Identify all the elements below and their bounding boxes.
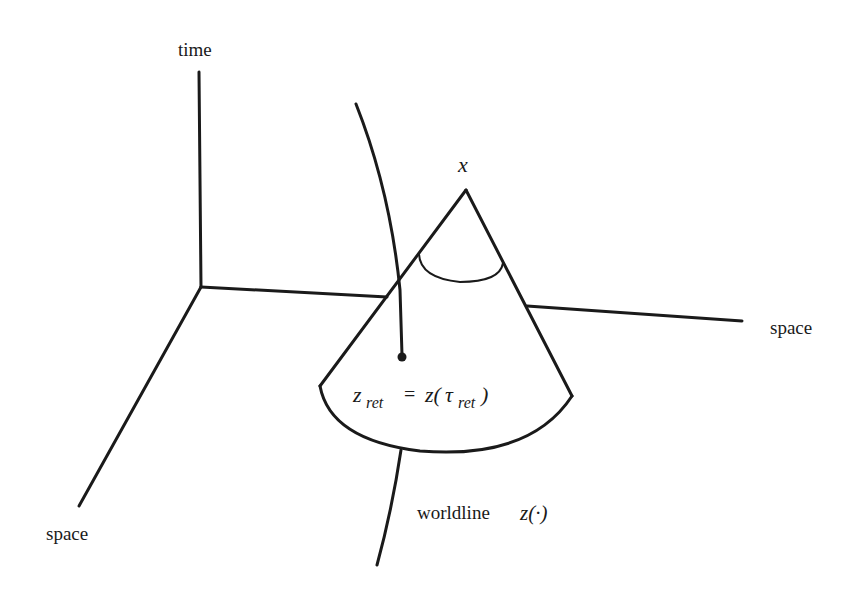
svg-text:ret: ret (458, 394, 476, 411)
retarded-point-label: z ret = z( τ ret ) (352, 382, 488, 411)
svg-text:z(·): z(·) (519, 501, 547, 525)
space-axis-right-label: space (770, 317, 812, 338)
time-axis-label: time (178, 39, 212, 60)
worldline-label: worldline z(·) (417, 501, 547, 525)
cone-angle-arc (419, 254, 503, 282)
svg-text:τ: τ (445, 382, 454, 407)
cone-left-edge (320, 190, 466, 386)
apex-label: x (457, 152, 468, 177)
svg-text:z(: z( (424, 382, 443, 407)
svg-text:=: = (404, 383, 415, 405)
space-axis-right-far-segment (527, 306, 742, 321)
worldline-lower (377, 450, 401, 565)
svg-text:): ) (479, 382, 488, 407)
retarded-point-dot (398, 353, 407, 362)
cone-right-edge (466, 190, 572, 396)
space-axis-front-label: space (46, 523, 88, 544)
svg-text:z: z (352, 382, 362, 407)
svg-text:worldline: worldline (417, 502, 490, 523)
time-axis (199, 72, 201, 287)
light-cone-diagram: time space space x z ret = z( τ ret ) wo… (0, 0, 861, 592)
space-axis-front (79, 287, 201, 506)
space-axis-right-left-segment (201, 287, 387, 297)
svg-text:ret: ret (366, 394, 384, 411)
worldline-upper (356, 104, 402, 355)
